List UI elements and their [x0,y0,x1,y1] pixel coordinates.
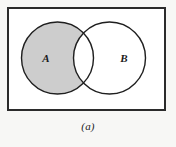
set-b-label: B [119,52,127,64]
venn-diagram-figure: A B (a) [0,0,176,147]
figure-caption: (a) [0,120,176,132]
set-a-label: A [41,52,49,64]
region-a-only-shading [0,0,176,122]
venn-diagram-canvas: A B [0,0,176,122]
